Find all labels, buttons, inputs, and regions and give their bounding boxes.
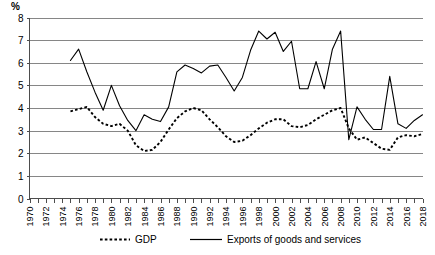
x-tick-label: 1990 <box>189 207 199 227</box>
legend-label-gdp: GDP <box>135 234 157 245</box>
x-tick-label: 2014 <box>385 207 395 227</box>
y-tick-label: 6 <box>18 58 24 69</box>
x-tick-label: 1984 <box>140 207 150 227</box>
x-tick-label: 2016 <box>402 207 412 227</box>
chart-legend: GDPExports of goods and services <box>100 234 361 245</box>
y-tick-label: 4 <box>18 103 24 114</box>
y-tick-label: 2 <box>18 148 24 159</box>
chart-container: % 012345678 1970197219741976197819801982… <box>0 0 435 255</box>
y-tick-label: 5 <box>18 80 24 91</box>
chart-plot: 012345678 197019721974197619781980198219… <box>0 0 435 255</box>
y-tick-label: 7 <box>18 35 24 46</box>
x-tick-label: 1978 <box>90 207 100 227</box>
legend-label-exports: Exports of goods and services <box>227 234 361 245</box>
x-tick-label: 1988 <box>172 207 182 227</box>
gridlines <box>27 19 423 200</box>
x-tick-label: 1996 <box>238 207 248 227</box>
x-tick-label: 2012 <box>369 207 379 227</box>
x-tick-label: 1970 <box>25 207 35 227</box>
x-tick-label: 1976 <box>74 207 84 227</box>
x-tick-label: 2018 <box>418 207 428 227</box>
x-tick-label: 1992 <box>205 207 215 227</box>
y-tick-label: 3 <box>18 126 24 137</box>
x-tick-label: 2010 <box>352 207 362 227</box>
x-tick-label: 1994 <box>221 207 231 227</box>
x-tick-label: 2006 <box>320 207 330 227</box>
x-tick-label: 1986 <box>156 207 166 227</box>
x-tick-label: 1998 <box>254 207 264 227</box>
x-tick-label: 1972 <box>41 207 51 227</box>
x-tick-label: 2000 <box>271 207 281 227</box>
x-tick-label: 1974 <box>58 207 68 227</box>
x-tick-label: 1980 <box>107 207 117 227</box>
x-tick-label: 2002 <box>287 207 297 227</box>
x-axis-tick-marks <box>31 199 424 203</box>
y-tick-label: 8 <box>18 13 24 24</box>
y-tick-label: 1 <box>18 171 24 182</box>
x-tick-label: 2008 <box>336 207 346 227</box>
x-tick-label: 1982 <box>123 207 133 227</box>
y-tick-label: 0 <box>18 194 24 205</box>
y-axis-tick-labels: 012345678 <box>18 13 24 205</box>
x-axis-tick-labels: 1970197219741976197819801982198419861988… <box>25 207 428 227</box>
x-tick-label: 2004 <box>303 207 313 227</box>
